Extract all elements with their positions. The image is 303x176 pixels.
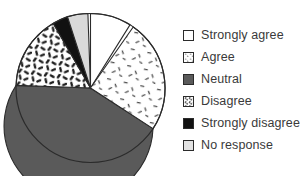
- legend-label-agree: Agree: [201, 51, 235, 64]
- legend-item-neutral[interactable]: Neutral: [183, 68, 303, 90]
- legend-label-strongly-disagree: Strongly disagree: [201, 117, 300, 130]
- pie-chart-figure: Strongly agree Agree Neutral Disagree St…: [0, 0, 303, 176]
- pie-svg: [0, 0, 180, 176]
- legend-swatch-agree-icon: [183, 52, 194, 63]
- legend-swatch-disagree-icon: [183, 96, 194, 107]
- legend-label-strongly-agree: Strongly agree: [201, 29, 284, 42]
- legend-swatch-strongly-disagree-icon: [183, 118, 194, 129]
- legend-swatch-no-response-icon: [183, 140, 194, 151]
- legend-label-disagree: Disagree: [201, 95, 252, 108]
- pie-chart-graphic: [0, 0, 180, 176]
- legend-item-strongly-agree[interactable]: Strongly agree: [183, 24, 303, 46]
- legend-item-disagree[interactable]: Disagree: [183, 90, 303, 112]
- legend-label-no-response: No response: [201, 139, 273, 152]
- legend-swatch-strongly-agree-icon: [183, 30, 194, 41]
- legend-item-no-response[interactable]: No response: [183, 134, 303, 156]
- chart-legend: Strongly agree Agree Neutral Disagree St…: [183, 24, 303, 156]
- legend-swatch-neutral-icon: [183, 74, 194, 85]
- legend-item-agree[interactable]: Agree: [183, 46, 303, 68]
- legend-item-strongly-disagree[interactable]: Strongly disagree: [183, 112, 303, 134]
- legend-label-neutral: Neutral: [201, 73, 242, 86]
